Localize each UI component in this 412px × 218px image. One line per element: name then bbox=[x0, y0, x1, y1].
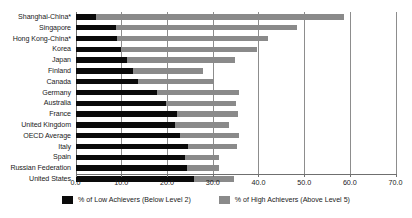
bar-stack bbox=[76, 155, 220, 160]
bar-segment-high-achievers bbox=[138, 79, 214, 84]
bar-row bbox=[76, 98, 396, 109]
x-axis-tick-label: 70.0 bbox=[389, 178, 403, 187]
bar-row bbox=[76, 12, 396, 23]
bar-segment-low-achievers bbox=[76, 133, 181, 138]
bar-segment-high-achievers bbox=[121, 47, 257, 52]
category-label: Australia bbox=[0, 98, 71, 109]
bar-segment-low-achievers bbox=[76, 14, 97, 19]
x-axis-tick bbox=[350, 174, 351, 177]
x-axis-tick-label: 20.0 bbox=[160, 178, 174, 187]
bar-segment-high-achievers bbox=[116, 25, 297, 30]
category-label: Singapore bbox=[0, 23, 71, 34]
bar-rows bbox=[76, 12, 396, 174]
bar-segment-high-achievers bbox=[177, 111, 238, 116]
bar-segment-low-achievers bbox=[76, 68, 133, 73]
bar-row bbox=[76, 163, 396, 174]
bar-stack bbox=[76, 90, 240, 95]
bar-segment-low-achievers bbox=[76, 101, 167, 106]
legend-item: % of Low Achievers (Below Level 2) bbox=[62, 196, 191, 204]
bar-row bbox=[76, 23, 396, 34]
bar-row bbox=[76, 109, 396, 120]
category-label: Italy bbox=[0, 142, 71, 153]
bar-segment-low-achievers bbox=[76, 25, 116, 30]
x-axis-tick-label: 40.0 bbox=[251, 178, 265, 187]
bar-segment-low-achievers bbox=[76, 111, 177, 116]
bar-segment-high-achievers bbox=[157, 90, 239, 95]
legend-swatch bbox=[219, 196, 230, 204]
x-axis-tick-label: 50.0 bbox=[297, 178, 311, 187]
bar-segment-low-achievers bbox=[76, 176, 195, 181]
bar-segment-high-achievers bbox=[96, 14, 344, 19]
bar-segment-high-achievers bbox=[180, 133, 239, 138]
x-axis-tick bbox=[76, 174, 77, 177]
x-axis-tick bbox=[167, 174, 168, 177]
bar-segment-low-achievers bbox=[76, 165, 188, 170]
bar-stack bbox=[76, 14, 344, 19]
bar-stack bbox=[76, 111, 239, 116]
bar-row bbox=[76, 34, 396, 45]
category-label: Korea bbox=[0, 44, 71, 55]
bar-row bbox=[76, 66, 396, 77]
x-axis-tick-label: 60.0 bbox=[343, 178, 357, 187]
bar-segment-high-achievers bbox=[187, 165, 219, 170]
bar-row bbox=[76, 152, 396, 163]
bar-segment-low-achievers bbox=[76, 57, 127, 62]
category-label: Russian Federation bbox=[0, 163, 71, 174]
category-label: Canada bbox=[0, 77, 71, 88]
x-axis-tick bbox=[121, 174, 122, 177]
bar-row bbox=[76, 142, 396, 153]
plot-area bbox=[76, 12, 396, 174]
category-label: OECD Average bbox=[0, 131, 71, 142]
legend-label: % of Low Achievers (Below Level 2) bbox=[78, 196, 191, 204]
bar-row bbox=[76, 88, 396, 99]
category-label: Hong Kong-China* bbox=[0, 34, 71, 45]
x-axis-tick-label: 0.0 bbox=[71, 178, 81, 187]
bar-row bbox=[76, 131, 396, 142]
x-axis-tick bbox=[213, 174, 214, 177]
x-axis-tick-label: 30.0 bbox=[206, 178, 220, 187]
bar-segment-low-achievers bbox=[76, 47, 121, 52]
x-axis-tick bbox=[258, 174, 259, 177]
chart-legend: % of Low Achievers (Below Level 2)% of H… bbox=[0, 196, 412, 204]
category-label: United Kingdom bbox=[0, 120, 71, 131]
bar-stack bbox=[76, 68, 204, 73]
gridline bbox=[396, 12, 397, 174]
bar-segment-low-achievers bbox=[76, 144, 188, 149]
x-axis-tick bbox=[304, 174, 305, 177]
bar-segment-high-achievers bbox=[188, 144, 237, 149]
bar-segment-low-achievers bbox=[76, 90, 157, 95]
bar-segment-low-achievers bbox=[76, 36, 117, 41]
bar-row bbox=[76, 120, 396, 131]
category-label: Finland bbox=[0, 66, 71, 77]
bar-row bbox=[76, 77, 396, 88]
stacked-bar-chart: Shanghai-China*SingaporeHong Kong-China*… bbox=[0, 0, 412, 218]
bar-segment-low-achievers bbox=[76, 155, 186, 160]
bar-stack bbox=[76, 101, 236, 106]
bar-segment-high-achievers bbox=[175, 122, 229, 127]
bar-stack bbox=[76, 144, 237, 149]
category-label: Germany bbox=[0, 88, 71, 99]
bar-segment-high-achievers bbox=[127, 57, 235, 62]
category-label: Shanghai-China* bbox=[0, 12, 71, 23]
bar-segment-high-achievers bbox=[185, 155, 219, 160]
category-label: Spain bbox=[0, 152, 71, 163]
bar-stack bbox=[76, 133, 240, 138]
legend-item: % of High Achievers (Above Level 5) bbox=[219, 196, 350, 204]
legend-swatch bbox=[62, 196, 73, 204]
category-label: France bbox=[0, 109, 71, 120]
bar-stack bbox=[76, 79, 215, 84]
bar-stack bbox=[76, 122, 230, 127]
category-label: Japan bbox=[0, 55, 71, 66]
x-axis-line bbox=[76, 174, 396, 175]
bar-row bbox=[76, 44, 396, 55]
bar-row bbox=[76, 55, 396, 66]
category-label: United States bbox=[0, 174, 71, 185]
bar-segment-low-achievers bbox=[76, 79, 139, 84]
bar-stack bbox=[76, 25, 297, 30]
category-axis-labels: Shanghai-China*SingaporeHong Kong-China*… bbox=[0, 12, 71, 174]
bar-stack bbox=[76, 36, 268, 41]
bar-stack bbox=[76, 47, 257, 52]
bar-stack bbox=[76, 57, 236, 62]
bar-segment-high-achievers bbox=[166, 101, 235, 106]
x-axis-tick bbox=[396, 174, 397, 177]
